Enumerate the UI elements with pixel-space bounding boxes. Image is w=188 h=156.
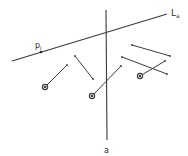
line-a [106, 10, 107, 140]
point-p-i-label: pi [35, 41, 42, 51]
segment-2-endpoint [92, 78, 94, 80]
segment-6-origin-dot [139, 75, 141, 77]
segment-6 [140, 61, 165, 76]
segment-4-endpoint [131, 44, 133, 46]
segment-1-endpoint [66, 64, 68, 66]
line-L-a-label: La [171, 8, 180, 19]
segment-1-origin-dot [44, 86, 46, 88]
point-p-i [40, 51, 43, 54]
segment-3-origin-dot [91, 95, 93, 97]
segment-2-endpoint [74, 55, 76, 57]
segment-5-endpoint [121, 56, 123, 58]
diagram-canvas: La a pi [0, 0, 188, 156]
segment-3-endpoint [120, 65, 122, 67]
line-L-a [12, 14, 167, 61]
segment-1 [45, 65, 67, 87]
line-a-label: a [104, 146, 109, 155]
segment-5 [122, 57, 167, 74]
diagram: La a pi [0, 0, 188, 156]
segment-5-endpoint [166, 73, 168, 75]
segment-4 [132, 45, 170, 56]
segment-4-endpoint [169, 55, 171, 57]
segment-2 [75, 56, 93, 79]
segment-6-endpoint [164, 60, 166, 62]
